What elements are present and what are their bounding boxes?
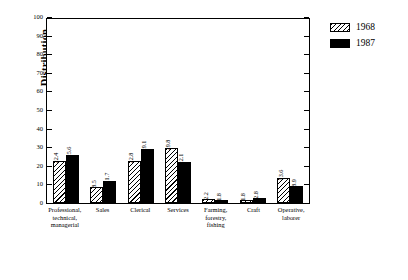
bar-fill [128, 161, 141, 203]
x-axis-label: Services [159, 206, 197, 229]
bar-value-label: 22.1 [177, 153, 184, 164]
y-tick-label: 40 [37, 124, 44, 133]
bar: 2.2 [202, 199, 215, 203]
bar-fill [178, 162, 191, 203]
y-tick-label: 50 [37, 105, 44, 114]
bar-group: 22.425.6 [47, 19, 84, 203]
bar-fill [141, 149, 154, 203]
bar-value-label: 8.9 [290, 180, 297, 188]
x-axis-labels: Professional,technical,managerialSalesCl… [46, 206, 310, 229]
bar-value-label: 29.1 [140, 140, 147, 151]
legend-swatch-hatch-icon [330, 23, 350, 32]
bar-fill [90, 187, 103, 203]
bar-group: 22.829.1 [122, 19, 159, 203]
bar: 11.7 [103, 181, 116, 203]
bar-groups: 22.425.68.511.722.829.129.822.12.21.81.8… [47, 19, 309, 203]
bar-value-label-wrap: 22.1 [178, 161, 191, 162]
legend-item-1968: 1968 [330, 22, 375, 32]
bar-value-label: 25.6 [65, 147, 72, 158]
bar-value-label-wrap: 22.8 [128, 160, 141, 161]
bar-value-label: 22.4 [52, 153, 59, 164]
bar: 25.6 [66, 155, 79, 203]
y-tick-label: 80 [37, 49, 44, 58]
x-axis-label: Operative,laborer [272, 206, 310, 229]
y-tick-label: 20 [37, 161, 44, 170]
y-tick-label: 0 [40, 198, 43, 207]
legend-label: 1968 [356, 22, 375, 32]
bar-group: 1.82.8 [234, 19, 271, 203]
bar-value-label-wrap: 8.5 [90, 186, 103, 187]
bar-fill [290, 186, 303, 203]
legend-label: 1987 [356, 38, 375, 48]
bar-value-label-wrap: 29.8 [165, 147, 178, 148]
bar-value-label: 29.8 [164, 139, 171, 150]
bar-value-label-wrap: 13.6 [277, 177, 290, 178]
bar-value-label-wrap: 22.4 [53, 160, 66, 161]
bar-fill [66, 155, 79, 203]
bar: 8.9 [290, 186, 303, 203]
bar-value-label-wrap: 8.9 [290, 185, 303, 186]
bar: 1.8 [215, 200, 228, 203]
bar: 22.4 [53, 161, 66, 203]
bar: 22.8 [128, 161, 141, 203]
x-axis-label: Craft [235, 206, 273, 229]
bar: 8.5 [90, 187, 103, 203]
bar-group: 8.511.7 [84, 19, 121, 203]
bar: 1.8 [240, 200, 253, 203]
y-tick-label: 60 [37, 86, 44, 95]
bar-value-label: 11.7 [103, 173, 110, 184]
bar: 2.8 [253, 198, 266, 203]
bar-fill [53, 161, 66, 203]
y-tick-mark-right [304, 203, 309, 204]
bar-value-label: 1.8 [215, 193, 222, 201]
y-tick-mark-right [304, 17, 309, 18]
bar-value-label-wrap: 29.1 [141, 148, 154, 149]
legend: 1968 1987 [330, 22, 375, 54]
x-axis-label: Sales [84, 206, 122, 229]
bar-value-label: 2.2 [202, 192, 209, 200]
bar: 13.6 [277, 178, 290, 203]
legend-item-1987: 1987 [330, 38, 375, 48]
y-tick-label: 10 [37, 179, 44, 188]
y-tick-mark [47, 203, 52, 204]
bar-value-label-wrap: 25.6 [66, 154, 79, 155]
bar-fill [277, 178, 290, 203]
bar-value-label: 8.5 [90, 180, 97, 188]
bar-value-label: 1.8 [239, 193, 246, 201]
bar-value-label-wrap: 2.8 [253, 197, 266, 198]
bar-group: 13.68.9 [272, 19, 309, 203]
bar-value-label: 2.8 [252, 191, 259, 199]
bar-group: 2.21.8 [197, 19, 234, 203]
plot-area: 0102030405060708090100 22.425.68.511.722… [46, 18, 310, 204]
legend-swatch-solid-icon [330, 39, 350, 48]
y-tick-label: 70 [37, 68, 44, 77]
bar-value-label-wrap: 2.2 [202, 198, 215, 199]
x-axis-label: Farming,forestry,fishing [197, 206, 235, 229]
bar-value-label-wrap: 1.8 [215, 199, 228, 200]
x-axis-label: Clerical [121, 206, 159, 229]
y-tick-label: 30 [37, 142, 44, 151]
bar-value-label: 22.8 [127, 152, 134, 163]
x-axis-label: Professional,technical,managerial [46, 206, 84, 229]
bar: 29.1 [141, 149, 154, 203]
bar-chart: Distribution 0102030405060708090100 22.4… [0, 0, 408, 280]
y-tick-mark [47, 17, 52, 18]
bar-value-label-wrap: 1.8 [240, 199, 253, 200]
y-tick-label: 100 [33, 12, 43, 21]
bar-group: 29.822.1 [159, 19, 196, 203]
bar-fill [103, 181, 116, 203]
bar-value-label: 13.6 [277, 169, 284, 180]
y-tick-label: 90 [37, 31, 44, 40]
bar-value-label-wrap: 11.7 [103, 180, 116, 181]
bar: 22.1 [178, 162, 191, 203]
